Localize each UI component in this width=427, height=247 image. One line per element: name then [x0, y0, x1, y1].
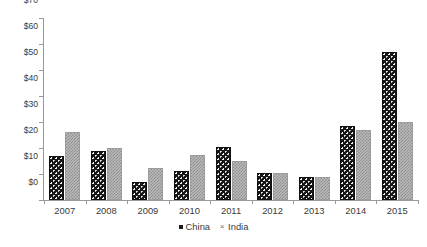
- x-axis-tick: [252, 200, 253, 204]
- x-axis-ticks: [44, 200, 418, 204]
- bar-india-2012: [273, 173, 288, 200]
- x-axis-tick: [293, 200, 294, 204]
- bar-india-2013: [315, 177, 330, 200]
- bar-india-2009: [148, 168, 163, 201]
- bar-india-2008: [107, 148, 122, 200]
- cross-marker-icon: ×: [219, 223, 225, 231]
- legend-item-india: × India: [219, 221, 248, 232]
- bar-china-2009: [132, 182, 147, 200]
- x-axis-labels: 200720082009201020112012201320142015: [44, 205, 418, 217]
- bar-group: [169, 18, 211, 200]
- x-axis-tick: [127, 200, 128, 204]
- x-axis-tick: [86, 200, 87, 204]
- x-axis-tick: [44, 200, 45, 204]
- x-axis-label-2013: 2013: [293, 205, 335, 217]
- bar-india-2007: [65, 132, 80, 200]
- bar-china-2014: [340, 126, 355, 200]
- y-axis-tick-label: $10: [4, 152, 38, 161]
- x-axis-tick: [169, 200, 170, 204]
- x-axis-label-2012: 2012: [252, 205, 294, 217]
- x-axis-label-2007: 2007: [44, 205, 86, 217]
- bar-group: [377, 18, 419, 200]
- bar-india-2011: [232, 161, 247, 200]
- bar-group: [335, 18, 377, 200]
- bar-groups: [44, 18, 418, 200]
- plot-area: [44, 18, 418, 200]
- bar-group: [210, 18, 252, 200]
- bar-india-2015: [398, 122, 413, 200]
- x-axis-tick: [418, 200, 419, 204]
- y-axis-tick-label: $30: [4, 100, 38, 109]
- x-axis-label-2009: 2009: [127, 205, 169, 217]
- y-axis-tick-label: $70: [4, 0, 38, 5]
- x-axis-tick: [335, 200, 336, 204]
- legend-item-china: China: [179, 221, 211, 232]
- bar-china-2011: [216, 147, 231, 200]
- x-axis-label-2011: 2011: [210, 205, 252, 217]
- y-axis-tick-label: $60: [4, 22, 38, 31]
- legend-label-china: China: [186, 221, 211, 232]
- x-axis-label-2008: 2008: [86, 205, 128, 217]
- bar-china-2013: [299, 177, 314, 200]
- y-axis-tick-label: $40: [4, 74, 38, 83]
- legend-label-india: India: [228, 221, 248, 232]
- y-axis-tick-label: $50: [4, 48, 38, 57]
- bar-group: [293, 18, 335, 200]
- bar-group: [127, 18, 169, 200]
- y-axis-tick-label: $0: [4, 178, 38, 187]
- chart-legend: China × India: [0, 221, 427, 232]
- bar-group: [44, 18, 86, 200]
- bar-chart: $0$10$20$30$40$50$60$70 2007200820092010…: [0, 0, 427, 247]
- bar-china-2007: [49, 156, 64, 200]
- bar-group: [252, 18, 294, 200]
- bar-china-2010: [174, 171, 189, 200]
- x-axis-tick: [376, 200, 377, 204]
- y-axis-labels: $0$10$20$30$40$50$60$70: [0, 0, 38, 182]
- bar-group: [86, 18, 128, 200]
- x-axis-label-2010: 2010: [169, 205, 211, 217]
- y-axis-tick-label: $20: [4, 126, 38, 135]
- x-axis-label-2015: 2015: [377, 205, 419, 217]
- bar-india-2014: [356, 130, 371, 200]
- bar-india-2010: [190, 155, 205, 201]
- bar-china-2012: [257, 173, 272, 200]
- x-axis-label-2014: 2014: [335, 205, 377, 217]
- bar-china-2008: [91, 151, 106, 200]
- filled-square-marker-icon: [179, 225, 183, 229]
- bar-china-2015: [382, 52, 397, 200]
- x-axis-tick: [210, 200, 211, 204]
